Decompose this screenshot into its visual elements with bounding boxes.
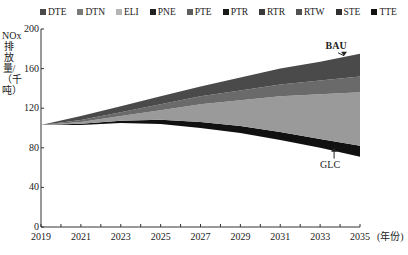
y-tick-label: 160 [24, 63, 39, 74]
x-tick-label: 2033 [310, 231, 330, 242]
y-tick-label: 40 [29, 181, 39, 192]
x-tick-label: 2031 [270, 231, 290, 242]
x-tick-label: 2035 [350, 231, 370, 242]
annotation-bau: BAU [326, 40, 347, 51]
y-tick-label: 120 [24, 102, 39, 113]
annotation-glc: GLC [320, 159, 340, 170]
stacked-area-chart: 0408012016020020192021202320252027202920… [0, 0, 408, 255]
y-tick-label: 200 [24, 23, 39, 34]
x-tick-label: 2023 [111, 231, 131, 242]
y-tick-label: 80 [29, 142, 39, 153]
x-tick-label: 2021 [71, 231, 91, 242]
x-tick-label: 2029 [230, 231, 250, 242]
x-tick-label: 2025 [151, 231, 171, 242]
x-axis-label: (年份) [377, 230, 404, 243]
x-tick-label: 2019 [31, 231, 51, 242]
x-tick-label: 2027 [191, 231, 211, 242]
